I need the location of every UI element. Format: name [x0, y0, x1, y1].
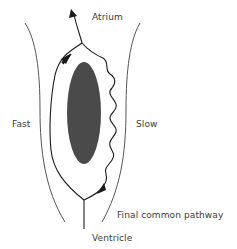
atrium-exit-line [74, 14, 82, 43]
diagram-canvas: Atrium Fast Slow Final common pathway Ve… [0, 0, 237, 249]
label-slow: Slow [136, 119, 157, 129]
left-outer-wall [25, 23, 65, 222]
central-barrier-ellipse [67, 62, 101, 164]
label-ventricle: Ventricle [92, 233, 132, 243]
atrium-arrowhead-icon [69, 9, 77, 18]
label-final-common-pathway: Final common pathway [117, 210, 223, 220]
right-outer-wall [102, 23, 140, 222]
label-atrium: Atrium [92, 12, 123, 22]
label-fast: Fast [12, 119, 30, 129]
